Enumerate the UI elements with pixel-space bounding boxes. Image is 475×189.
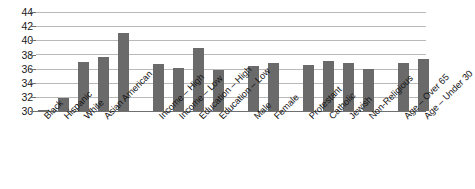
y-tick-label-40: 40	[3, 35, 33, 45]
y-tick-label-32: 32	[3, 92, 33, 102]
x-axis-labels: BlackHispanicWhiteAsian AmericanIncome –…	[0, 112, 438, 189]
bar	[153, 64, 164, 111]
y-tick-label-44: 44	[3, 7, 33, 17]
y-tick-label-38: 38	[3, 50, 33, 60]
y-tick-label-42: 42	[3, 21, 33, 31]
y-tick-label-36: 36	[3, 64, 33, 74]
y-axis: 44 42 40 38 36 34 32 30	[0, 0, 33, 130]
bar	[303, 65, 314, 111]
y-tick-label-34: 34	[3, 78, 33, 88]
